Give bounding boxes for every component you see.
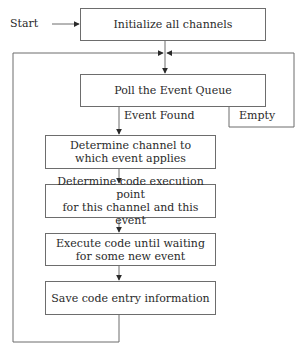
node-determine-execution-point: Determine code execution point for this … bbox=[45, 184, 216, 218]
node-label-line2: for this channel and this event bbox=[46, 201, 215, 227]
node-label-line1: Determine channel to bbox=[70, 139, 191, 152]
node-save-code-entry: Save code entry information bbox=[45, 281, 216, 315]
node-determine-channel: Determine channel to which event applies bbox=[45, 135, 216, 169]
node-label: Poll the Event Queue bbox=[114, 84, 232, 97]
node-label: Initialize all channels bbox=[113, 18, 232, 31]
node-label-line1: Execute code until waiting bbox=[56, 237, 205, 250]
node-initialize-channels: Initialize all channels bbox=[80, 8, 266, 41]
start-label: Start bbox=[10, 17, 38, 30]
edge-label-event-found: Event Found bbox=[124, 109, 195, 122]
node-label: Save code entry information bbox=[51, 292, 209, 305]
node-label-line1: Determine code execution point bbox=[46, 175, 215, 201]
node-label-line2: for some new event bbox=[76, 250, 185, 263]
edge-label-empty: Empty bbox=[239, 109, 275, 122]
node-label-line2: which event applies bbox=[75, 152, 186, 165]
node-execute-code: Execute code until waiting for some new … bbox=[45, 233, 216, 266]
node-poll-event-queue: Poll the Event Queue bbox=[80, 74, 266, 107]
